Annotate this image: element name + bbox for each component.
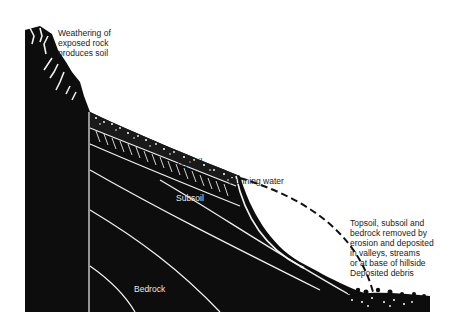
label-weathering: Weathering of exposed rock produces soil	[58, 28, 111, 58]
label-bedrock: Bedrock	[134, 284, 165, 294]
label-deposited-debris: Deposited debris	[350, 268, 414, 278]
label-topsoil: Topsoil	[176, 157, 202, 167]
label-running-water: Running water	[229, 176, 284, 186]
label-erosion-note: Topsoil, subsoil and bedrock removed by …	[350, 218, 434, 268]
label-subsoil: Subsoil	[176, 193, 204, 203]
